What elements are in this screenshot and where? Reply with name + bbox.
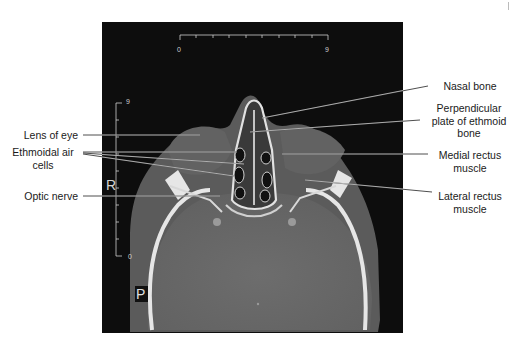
label-line: cells <box>8 159 78 172</box>
label-optic-nerve: Optic nerve <box>10 190 78 203</box>
label-lateral-rectus: Lateral rectus muscle <box>430 190 510 215</box>
label-line: Perpendicular <box>424 102 512 115</box>
label-ethmoidal-air-cells: Ethmoidal air cells <box>8 146 78 171</box>
label-line: plate of ethmoid <box>424 115 512 128</box>
figure: 0 9 9 0 R P <box>0 0 512 346</box>
label-line: Ethmoidal air <box>8 146 78 159</box>
label-perpendicular-plate: Perpendicular plate of ethmoid bone <box>424 102 512 140</box>
label-line: muscle <box>430 162 510 175</box>
label-lens-of-eye: Lens of eye <box>10 129 78 142</box>
page-edge-mark <box>508 2 509 10</box>
label-medial-rectus: Medial rectus muscle <box>430 149 510 174</box>
label-line: muscle <box>430 203 510 216</box>
label-line: bone <box>424 127 512 140</box>
label-nasal-bone: Nasal bone <box>430 80 510 93</box>
label-line: Lateral rectus <box>430 190 510 203</box>
label-line: Medial rectus <box>430 149 510 162</box>
